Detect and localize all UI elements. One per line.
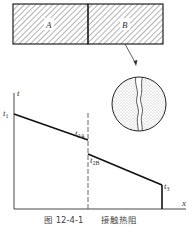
figure-caption-title: 接触热阻: [101, 215, 137, 225]
figure-caption-number: 图 12-4-1: [44, 215, 83, 225]
label-t2a: t2A: [75, 128, 86, 139]
contact-resistance-diagram: A B t x t1 t2A t2B t3 图 12-4-1 接触热阻: [0, 0, 193, 228]
block-a: A: [13, 4, 88, 44]
magnified-inset: [110, 75, 170, 135]
y-axis-label: t: [17, 88, 20, 98]
block-b: B: [88, 4, 163, 44]
block-b-label: B: [122, 20, 128, 30]
label-t1: t1: [3, 108, 9, 119]
x-axis-label: x: [181, 198, 186, 208]
label-t3: t3: [164, 181, 170, 192]
pointer-arrow: [125, 44, 138, 66]
block-a-label: A: [45, 20, 52, 30]
